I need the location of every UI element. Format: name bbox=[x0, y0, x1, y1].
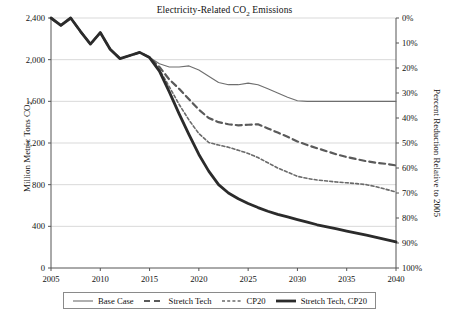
svg-text:90%: 90% bbox=[402, 238, 418, 248]
gridlines bbox=[51, 18, 396, 226]
svg-text:100%: 100% bbox=[402, 263, 422, 273]
legend-label-base-case: Base Case bbox=[98, 296, 134, 306]
svg-text:0%: 0% bbox=[402, 13, 413, 23]
series-line-cp20 bbox=[51, 18, 396, 192]
legend-label-stretch-tech-cp20: Stretch Tech, CP20 bbox=[301, 296, 367, 306]
x-axis-ticks: 20052010201520202025203020352040 bbox=[42, 268, 404, 284]
chart-figure: Electricity-Related CO2 Emissions Millio… bbox=[0, 0, 449, 318]
svg-text:10%: 10% bbox=[402, 38, 418, 48]
svg-text:30%: 30% bbox=[402, 88, 418, 98]
svg-text:800: 800 bbox=[32, 180, 45, 190]
series-line-stretch-tech-cp20 bbox=[51, 18, 396, 242]
svg-text:50%: 50% bbox=[402, 138, 418, 148]
svg-text:40%: 40% bbox=[402, 113, 418, 123]
data-series-group bbox=[51, 18, 396, 242]
legend-swatch-base-case bbox=[72, 296, 94, 306]
svg-text:0: 0 bbox=[41, 263, 45, 273]
legend-swatch-stretch-tech bbox=[143, 296, 165, 306]
svg-text:2035: 2035 bbox=[338, 274, 355, 284]
y-axis-ticks-right: 0%10%20%30%40%50%60%70%80%90%100% bbox=[396, 13, 422, 273]
svg-text:2030: 2030 bbox=[289, 274, 306, 284]
chart-legend: Base Case Stretch Tech CP20 Stretch Tech… bbox=[63, 292, 376, 309]
svg-text:2010: 2010 bbox=[92, 274, 109, 284]
legend-item-stretch-tech-cp20[interactable]: Stretch Tech, CP20 bbox=[275, 296, 367, 306]
svg-text:2015: 2015 bbox=[141, 274, 158, 284]
legend-item-base-case[interactable]: Base Case bbox=[72, 296, 134, 306]
legend-swatch-cp20 bbox=[221, 296, 243, 306]
svg-text:400: 400 bbox=[32, 221, 45, 231]
svg-text:1,200: 1,200 bbox=[26, 138, 45, 148]
svg-text:2040: 2040 bbox=[387, 274, 404, 284]
svg-text:70%: 70% bbox=[402, 188, 418, 198]
svg-text:80%: 80% bbox=[402, 213, 418, 223]
svg-text:2020: 2020 bbox=[190, 274, 207, 284]
y-axis-ticks-left: 04008001,2001,6002,0002,400 bbox=[26, 13, 51, 273]
svg-text:1,600: 1,600 bbox=[26, 96, 45, 106]
svg-text:2,000: 2,000 bbox=[26, 55, 45, 65]
plot-area: 20052010201520202025203020352040 0400800… bbox=[0, 0, 449, 318]
legend-item-stretch-tech[interactable]: Stretch Tech bbox=[143, 296, 212, 306]
legend-label-stretch-tech: Stretch Tech bbox=[169, 296, 212, 306]
svg-text:60%: 60% bbox=[402, 163, 418, 173]
svg-text:2,400: 2,400 bbox=[26, 13, 45, 23]
svg-text:2005: 2005 bbox=[42, 274, 59, 284]
legend-swatch-stretch-tech-cp20 bbox=[275, 296, 297, 306]
legend-label-cp20: CP20 bbox=[247, 296, 266, 306]
svg-text:2025: 2025 bbox=[240, 274, 257, 284]
legend-item-cp20[interactable]: CP20 bbox=[221, 296, 266, 306]
svg-text:20%: 20% bbox=[402, 63, 418, 73]
